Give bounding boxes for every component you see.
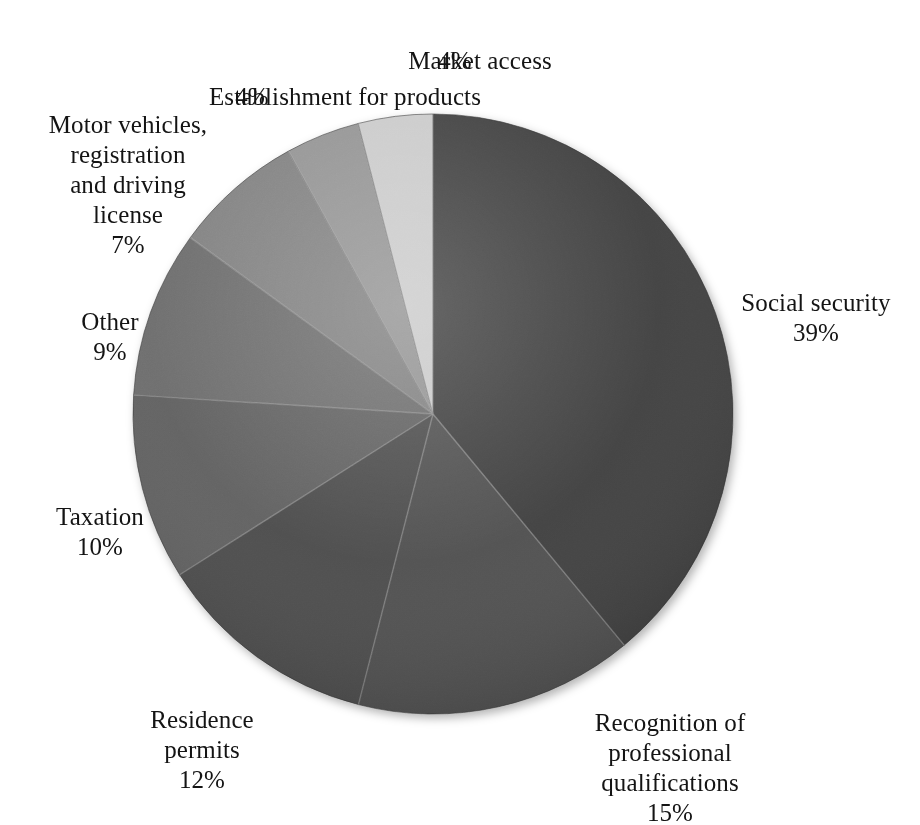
slice-label-social-security: Social security 39% (712, 258, 920, 378)
slice-label-motor-vehicles: Motor vehicles, registration and driving… (8, 80, 248, 290)
slice-value-motor-vehicles: 7% (8, 230, 248, 260)
slice-label-recognition-text: Recognition of professional qualificatio… (595, 709, 746, 796)
slice-label-other: Other 9% (20, 277, 200, 397)
slice-label-taxation-text: Taxation (56, 503, 144, 530)
slice-value-social-security: 39% (712, 318, 920, 348)
slice-value-other: 9% (20, 337, 200, 367)
slice-label-taxation: Taxation 10% (10, 472, 190, 592)
slice-label-residence-permits: Residence permits 12% (92, 675, 312, 825)
slice-value-residence-permits: 12% (92, 765, 312, 795)
slice-label-recognition: Recognition of professional qualificatio… (540, 678, 800, 825)
slice-label-motor-vehicles-text: Motor vehicles, registration and driving… (49, 111, 207, 228)
slice-label-other-text: Other (81, 308, 138, 335)
slice-value-recognition: 15% (540, 798, 800, 825)
slice-value-taxation: 10% (10, 532, 190, 562)
slice-label-social-security-text: Social security (741, 289, 890, 316)
slice-label-residence-permits-text: Residence permits (150, 706, 254, 763)
